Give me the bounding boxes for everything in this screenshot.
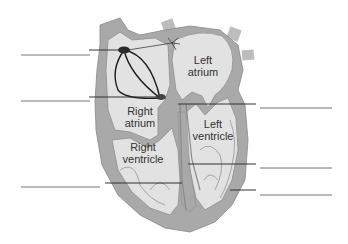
label-right-ventricle-line2: ventricle — [123, 153, 164, 165]
label-left-atrium-line1: Left — [194, 54, 212, 66]
label-left-ventricle-line1: Left — [204, 118, 222, 130]
label-right-atrium-line1: Right — [127, 105, 153, 117]
heart-diagram: Left atrium Right atrium Left ventricle … — [0, 0, 348, 244]
label-right-atrium-line2: atrium — [125, 117, 156, 129]
label-left-ventricle-line2: ventricle — [193, 130, 234, 142]
label-left-atrium-line2: atrium — [188, 66, 219, 78]
label-right-ventricle-line1: Right — [130, 141, 156, 153]
